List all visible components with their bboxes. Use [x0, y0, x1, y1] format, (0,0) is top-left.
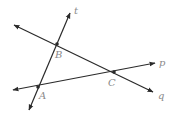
point-C — [112, 70, 116, 74]
line-q — [14, 25, 153, 92]
geometry-diagram: t p q B A C — [0, 0, 173, 118]
label-B: B — [54, 49, 62, 60]
line-t — [29, 13, 70, 110]
line-p — [13, 63, 155, 90]
label-C: C — [108, 77, 116, 88]
label-q: q — [158, 90, 164, 101]
point-A — [36, 85, 40, 89]
point-B — [55, 42, 59, 46]
label-t: t — [74, 5, 79, 16]
label-p: p — [159, 57, 166, 68]
label-A: A — [38, 90, 46, 101]
